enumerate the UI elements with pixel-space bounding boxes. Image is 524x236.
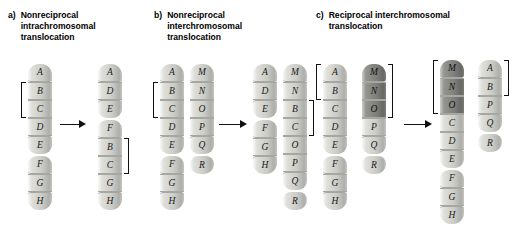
- translocation-bracket: [388, 64, 393, 118]
- band-label: N: [371, 86, 377, 96]
- band-label: F: [169, 159, 175, 169]
- panel-b-after-chromosome-2-after: MNBCOPQR: [283, 64, 307, 210]
- chromosome-band-C: C: [98, 156, 122, 174]
- chromosome-band-N: N: [362, 82, 386, 100]
- band-label: G: [37, 178, 44, 188]
- band-label: F: [107, 123, 113, 133]
- band-label: R: [487, 138, 493, 148]
- arrow-head: [240, 120, 247, 128]
- band-label: O: [371, 104, 378, 114]
- chromosome-band-C: C: [28, 100, 52, 118]
- chromosome-band-M: M: [283, 64, 307, 82]
- band-label: B: [292, 104, 298, 114]
- band-label: O: [449, 100, 456, 110]
- band-label: P: [199, 122, 205, 132]
- band-label: C: [107, 160, 113, 170]
- band-label: B: [332, 86, 338, 96]
- chromosome-band-A: A: [478, 60, 502, 78]
- panel-c-letter: c): [316, 10, 324, 21]
- panel-c-after-chromosome-1-after: MNOCDEFGH: [440, 60, 464, 224]
- band-label: F: [37, 159, 43, 169]
- panel-b-letter: b): [154, 10, 162, 21]
- arrow-shaft: [219, 124, 241, 125]
- band-label: H: [169, 196, 176, 206]
- band-label: D: [37, 122, 44, 132]
- chromosome-band-N: N: [283, 82, 307, 100]
- chromosome-band-H: H: [98, 192, 122, 210]
- chromosome-band-H: H: [323, 192, 347, 210]
- band-label: A: [487, 63, 493, 73]
- chromosome-band-G: G: [28, 174, 52, 192]
- band-label: B: [107, 142, 113, 152]
- translocation-bracket: [433, 60, 438, 114]
- band-label: G: [332, 178, 339, 188]
- chromosome-band-B: B: [98, 138, 122, 156]
- band-label: A: [107, 67, 113, 77]
- panel-b-caption-text: Nonreciprocal interchromosomal transloca…: [167, 10, 242, 43]
- chromosome-band-D: D: [160, 118, 184, 136]
- chromosome-band-M: M: [190, 64, 214, 82]
- band-label: N: [292, 86, 298, 96]
- band-label: A: [332, 67, 338, 77]
- arrow-panel-b: [219, 120, 247, 129]
- chromosome-band-C: C: [160, 100, 184, 118]
- translocation-bracket: [153, 82, 158, 118]
- band-label: D: [262, 86, 269, 96]
- chromosome-band-C: C: [440, 114, 464, 132]
- band-label: B: [487, 82, 493, 92]
- translocation-bracket: [316, 64, 321, 100]
- chromosome-band-B: B: [283, 100, 307, 118]
- panel-c-caption-text: Reciprocal interchromosomal translocatio…: [329, 10, 450, 32]
- chromosome-band-Q: Q: [362, 136, 386, 154]
- chromosome-band-R: R: [362, 156, 386, 174]
- chromosome-band-Q: Q: [283, 172, 307, 190]
- chromosome-band-M: M: [362, 64, 386, 82]
- translocation-bracket: [309, 100, 314, 136]
- chromosome-band-B: B: [478, 78, 502, 96]
- panel-a-letter: a): [8, 10, 16, 21]
- chromosome-band-G: G: [440, 188, 464, 206]
- chromosome-band-F: F: [440, 170, 464, 188]
- translocation-figure: a) Nonreciprocal intrachromosomal transl…: [0, 0, 524, 236]
- band-label: M: [198, 67, 206, 77]
- band-label: Q: [292, 176, 299, 186]
- band-label: Q: [487, 118, 494, 128]
- chromosome-band-B: B: [28, 82, 52, 100]
- chromosome-band-H: H: [160, 192, 184, 210]
- chromosome-band-R: R: [478, 134, 502, 152]
- band-label: D: [107, 86, 114, 96]
- panel-a-after-chromosome-1-after: ADEFBCGH: [98, 64, 122, 210]
- band-label: F: [449, 173, 455, 183]
- chromosome-band-H: H: [28, 192, 52, 210]
- band-label: R: [292, 196, 298, 206]
- band-label: C: [292, 122, 298, 132]
- band-label: B: [37, 86, 43, 96]
- band-label: E: [332, 140, 338, 150]
- chromosome-band-E: E: [160, 136, 184, 154]
- chromosome-band-F: F: [98, 120, 122, 138]
- band-label: C: [169, 104, 175, 114]
- chromosome-band-P: P: [283, 154, 307, 172]
- arrow-shaft: [404, 124, 426, 125]
- chromosome-band-D: D: [28, 118, 52, 136]
- band-label: N: [199, 86, 205, 96]
- chromosome-band-R: R: [190, 156, 214, 174]
- chromosome-band-R: R: [283, 192, 307, 210]
- chromosome-band-B: B: [160, 82, 184, 100]
- panel-b-before-chromosome-2-before: MNOPQR: [190, 64, 214, 174]
- panel-a-before-chromosome-1-before: ABCDEFGH: [28, 64, 52, 210]
- chromosome-band-E: E: [28, 136, 52, 154]
- chromosome-band-G: G: [323, 174, 347, 192]
- chromosome-band-B: B: [323, 82, 347, 100]
- panel-c-before-chromosome-2-before: MNOPQR: [362, 64, 386, 174]
- panel-c-after-chromosome-2-after: ABPQR: [478, 60, 502, 152]
- band-label: A: [169, 67, 175, 77]
- band-label: G: [169, 178, 176, 188]
- panel-c-before-chromosome-1-before: ABCDEFGH: [323, 64, 347, 210]
- chromosome-band-C: C: [323, 100, 347, 118]
- band-label: D: [332, 122, 339, 132]
- chromosome-band-F: F: [323, 156, 347, 174]
- chromosome-band-P: P: [190, 118, 214, 136]
- band-label: H: [449, 210, 456, 220]
- chromosome-band-F: F: [160, 156, 184, 174]
